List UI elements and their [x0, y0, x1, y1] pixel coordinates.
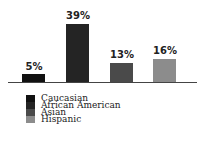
bar-african-american [66, 24, 89, 82]
legend-item-hispanic: Hispanic [26, 116, 121, 123]
legend-swatch-hispanic [26, 116, 35, 123]
x-axis-baseline [8, 82, 197, 83]
bar-hispanic [153, 59, 176, 82]
value-label-african-american: 39% [58, 10, 98, 21]
value-label-caucasian: 5% [14, 61, 54, 72]
value-label-asian: 13% [102, 49, 142, 60]
legend-swatch-african-american [26, 102, 35, 109]
legend: Caucasian African American Asian Hispani… [26, 95, 121, 123]
bar-chart: 5% 39% 13% 16% Caucasian African America… [0, 0, 206, 154]
legend-swatch-caucasian [26, 95, 35, 102]
legend-swatch-asian [26, 109, 35, 116]
legend-label: Hispanic [41, 116, 81, 123]
bar-caucasian [22, 74, 45, 82]
value-label-hispanic: 16% [145, 45, 185, 56]
bar-asian [110, 63, 133, 82]
